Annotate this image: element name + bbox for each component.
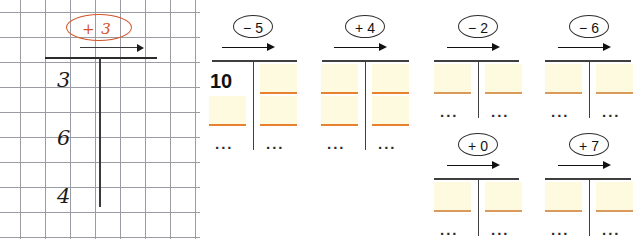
answer-blank-box[interactable]	[372, 96, 409, 124]
arrow-head-icon	[267, 43, 275, 51]
answer-blank-box[interactable]	[485, 182, 522, 210]
grid-arrow-right	[80, 43, 146, 52]
arrow-head-icon	[603, 43, 611, 51]
continuation-ellipsis: ...	[440, 104, 459, 119]
arrow-head-icon	[137, 44, 144, 52]
frame-divider-line	[478, 60, 479, 118]
frame-rule-line	[545, 60, 631, 62]
operation-badge-label: − 5	[233, 21, 273, 35]
frame-divider-line	[589, 178, 590, 236]
answer-blank-box[interactable]	[596, 64, 633, 92]
answer-blank-rule	[485, 210, 522, 212]
column-rule-line	[45, 57, 157, 59]
arrow-head-icon	[603, 161, 611, 169]
operation-badge-label: + 4	[345, 21, 385, 35]
continuation-ellipsis: ...	[215, 136, 234, 151]
answer-blank-box[interactable]	[260, 64, 297, 92]
frame-divider-line	[253, 60, 254, 150]
answer-blank-rule	[321, 124, 358, 126]
answer-blank-rule	[321, 92, 358, 94]
direction-arrow-right	[558, 161, 612, 170]
continuation-ellipsis: ...	[551, 104, 570, 119]
answer-blank-box[interactable]	[434, 182, 471, 210]
continuation-ellipsis: ...	[440, 222, 459, 237]
answer-blank-rule	[372, 124, 409, 126]
continuation-ellipsis: ...	[602, 222, 621, 237]
arrow-shaft	[558, 47, 604, 48]
arrow-shaft	[334, 47, 380, 48]
arrow-head-icon	[492, 161, 500, 169]
handwritten-digit: 6	[57, 128, 70, 149]
handwritten-digit: 3	[57, 70, 70, 91]
answer-blank-box[interactable]	[260, 96, 297, 124]
grid-line-horizontal	[0, 237, 200, 238]
frame-divider-line	[478, 178, 479, 236]
arrow-shaft	[447, 47, 493, 48]
frame-divider-line	[365, 60, 366, 150]
frame-rule-line	[545, 178, 631, 180]
answer-blank-rule	[372, 92, 409, 94]
continuation-ellipsis: ...	[266, 136, 285, 151]
operation-badge-label: + 7	[569, 139, 609, 153]
figure-canvas: + 3 3 6 4 − 510......+ 4......− 2......−…	[0, 0, 639, 239]
continuation-ellipsis: ...	[551, 222, 570, 237]
answer-blank-rule	[434, 92, 471, 94]
direction-arrow-right	[334, 43, 388, 52]
grid-line-vertical	[45, 0, 46, 239]
continuation-ellipsis: ...	[327, 136, 346, 151]
grid-line-horizontal	[0, 12, 200, 13]
direction-arrow-right	[222, 43, 276, 52]
frame-rule-line	[434, 178, 519, 180]
arrow-shaft	[80, 47, 139, 48]
answer-blank-rule	[545, 92, 582, 94]
continuation-ellipsis: ...	[491, 104, 510, 119]
grid-line-vertical	[195, 0, 196, 239]
answer-blank-rule	[596, 210, 633, 212]
arrow-head-icon	[379, 43, 387, 51]
arrow-shaft	[447, 165, 493, 166]
answer-blank-rule	[209, 124, 246, 126]
operation-badge-label: − 2	[458, 21, 498, 35]
answer-blank-box[interactable]	[321, 64, 358, 92]
annotation-label: + 3	[82, 22, 112, 37]
frame-divider-line	[589, 60, 590, 118]
grid-line-vertical	[145, 0, 146, 239]
column-divider-line	[99, 57, 101, 207]
answer-blank-box[interactable]	[545, 64, 582, 92]
continuation-ellipsis: ...	[378, 136, 397, 151]
direction-arrow-right	[558, 43, 612, 52]
answer-blank-box[interactable]	[372, 64, 409, 92]
answer-blank-box[interactable]	[209, 96, 246, 124]
handwritten-digit: 4	[57, 186, 70, 207]
grid-line-horizontal	[0, 212, 200, 213]
answer-blank-box[interactable]	[321, 96, 358, 124]
answer-blank-box[interactable]	[545, 182, 582, 210]
grid-line-vertical	[170, 0, 171, 239]
frame-rule-line	[434, 60, 519, 62]
arrow-head-icon	[492, 43, 500, 51]
answer-blank-rule	[260, 92, 297, 94]
continuation-ellipsis: ...	[491, 222, 510, 237]
arrow-shaft	[558, 165, 604, 166]
arrow-shaft	[222, 47, 268, 48]
grid-line-vertical	[20, 0, 21, 239]
answer-blank-rule	[596, 92, 633, 94]
answer-blank-box[interactable]	[596, 182, 633, 210]
given-value: 10	[210, 71, 247, 91]
direction-arrow-right	[447, 43, 501, 52]
answer-blank-rule	[260, 124, 297, 126]
direction-arrow-right	[447, 161, 501, 170]
continuation-ellipsis: ...	[602, 104, 621, 119]
answer-blank-box[interactable]	[485, 64, 522, 92]
answer-blank-rule	[545, 210, 582, 212]
frame-rule-line	[212, 60, 297, 62]
answer-blank-rule	[434, 210, 471, 212]
operation-badge-label: − 6	[569, 21, 609, 35]
operation-badge-label: + 0	[458, 139, 498, 153]
answer-blank-box[interactable]	[434, 64, 471, 92]
squared-exercise-paper: + 3 3 6 4	[0, 0, 200, 239]
answer-blank-rule	[485, 92, 522, 94]
